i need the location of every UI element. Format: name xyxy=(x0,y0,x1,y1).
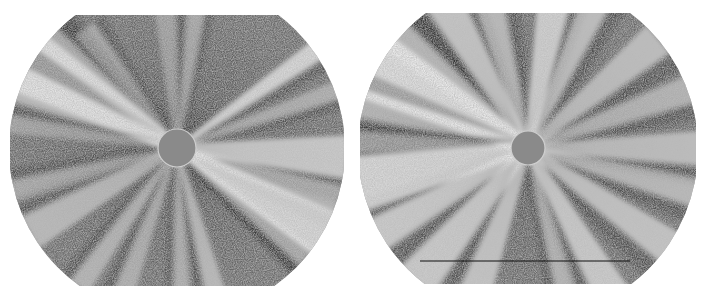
coronagraph-image-left xyxy=(10,15,344,286)
corona-field xyxy=(10,15,344,286)
occulting-disk xyxy=(511,131,545,165)
corona-field xyxy=(360,13,696,284)
occulting-disk xyxy=(158,129,196,167)
coronagraph-left-svg xyxy=(10,15,344,286)
coronagraph-right-svg xyxy=(360,13,696,284)
coronagraph-image-right xyxy=(360,13,696,284)
